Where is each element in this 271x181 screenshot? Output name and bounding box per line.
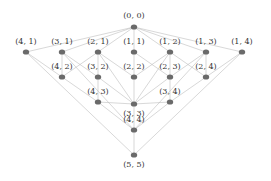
edge [98,52,134,104]
node-dot [23,49,29,54]
lattice-diagram: (0, 0)(4, 1)(3, 1)(2, 1)(1, 1)(1, 2)(1, … [0,0,271,181]
node-dot [131,127,137,132]
node: (4, 4) [123,115,145,133]
edge [134,102,170,104]
node-label: (4, 1) [15,37,37,46]
node: (2, 1) [87,37,109,55]
node-dot [95,49,101,54]
node-dot [131,49,137,54]
edge [98,102,134,104]
node-dot [203,74,209,79]
node-label: (2, 2) [123,62,145,71]
edge [26,52,134,155]
node-dot [167,74,173,79]
node-dot [95,99,101,104]
node: (1, 3) [195,37,217,55]
node-dot [239,49,245,54]
node-label: (4, 2) [51,62,73,71]
node-label: (3, 4) [159,87,181,96]
node: (2, 2) [123,62,145,80]
node-label: (1, 4) [231,37,253,46]
node: (5, 5) [123,152,145,169]
node-dot [131,101,137,106]
node: (4, 2) [51,62,73,80]
node-label: (1, 1) [123,37,145,46]
node-dot [95,74,101,79]
node-dot [59,49,65,54]
edge-layer [26,27,242,155]
node-dot [167,99,173,104]
node-label: (2, 3) [159,62,181,71]
node: (4, 3) [87,87,109,105]
node-label: (4, 3) [87,87,109,96]
node: (4, 1) [15,37,37,55]
node: (3, 1) [51,37,73,55]
node-label: (0, 0) [123,11,145,20]
edge [134,52,170,104]
node: (1, 2) [159,37,181,55]
node-label: (5, 5) [123,160,145,169]
node-dot [131,74,137,79]
node-label: (2, 4) [195,62,217,71]
node-label: (3, 2) [87,62,109,71]
node-dot [203,49,209,54]
node: (2, 4) [195,62,217,80]
node-label: (1, 3) [195,37,217,46]
node-label: (2, 1) [87,37,109,46]
node-label: (3, 1) [51,37,73,46]
node: (3, 2) [87,62,109,80]
lattice-canvas: (0, 0)(4, 1)(3, 1)(2, 1)(1, 1)(1, 2)(1, … [0,0,271,181]
node: (2, 3) [159,62,181,80]
node-label: (4, 4) [123,115,145,124]
node-dot [131,24,137,29]
node: (3, 4) [159,87,181,105]
edge [134,27,242,52]
node-dot [59,74,65,79]
node-dot [167,49,173,54]
edge [134,52,242,155]
node: (0, 0) [123,11,145,30]
node: (1, 1) [123,37,145,55]
node-dot [131,152,137,157]
node: (1, 4) [231,37,253,55]
edge [26,27,134,52]
node-label: (1, 2) [159,37,181,46]
